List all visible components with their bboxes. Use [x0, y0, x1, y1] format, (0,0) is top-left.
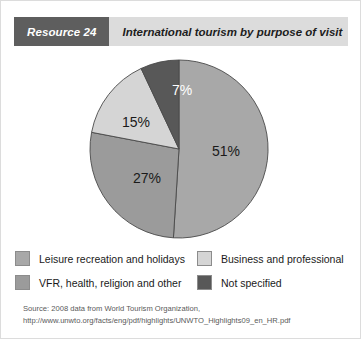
figure-title: International tourism by purpose of visi…	[109, 17, 349, 46]
source-note: Source: 2008 data from World Tourism Org…	[23, 303, 353, 327]
pie-label-business: 15%	[122, 114, 150, 130]
legend-item-not-specified[interactable]: Not specified	[197, 275, 349, 290]
legend-item-vfr[interactable]: VFR, health, religion and other	[15, 275, 197, 290]
resource-figure-page: Resource 24 International tourism by pur…	[0, 0, 361, 339]
source-line-1: Source: 2008 data from World Tourism Org…	[23, 303, 353, 315]
legend-label: VFR, health, religion and other	[39, 277, 181, 289]
source-line-2[interactable]: http://www.unwto.org/facts/eng/pdf/highl…	[23, 315, 353, 327]
legend-item-business[interactable]: Business and professional	[197, 251, 349, 266]
resource-number-tag: Resource 24	[14, 17, 109, 46]
legend-label: Leisure recreation and holidays	[39, 253, 185, 265]
pie-label-not-specified: 7%	[172, 82, 192, 98]
legend-swatch-icon	[197, 251, 212, 266]
legend-swatch-icon	[15, 251, 30, 266]
legend-swatch-icon	[15, 275, 30, 290]
legend-label: Business and professional	[221, 253, 344, 265]
pie-label-leisure: 51%	[212, 143, 240, 159]
chart-legend: Leisure recreation and holidays Business…	[15, 251, 349, 290]
figure-header: Resource 24 International tourism by pur…	[14, 17, 348, 46]
pie-chart-svg: 51% 27% 15% 7%	[89, 59, 269, 239]
pie-label-vfr: 27%	[133, 170, 161, 186]
pie-chart: 51% 27% 15% 7%	[89, 59, 269, 239]
legend-label: Not specified	[221, 277, 282, 289]
legend-item-leisure[interactable]: Leisure recreation and holidays	[15, 251, 197, 266]
legend-swatch-icon	[197, 275, 212, 290]
